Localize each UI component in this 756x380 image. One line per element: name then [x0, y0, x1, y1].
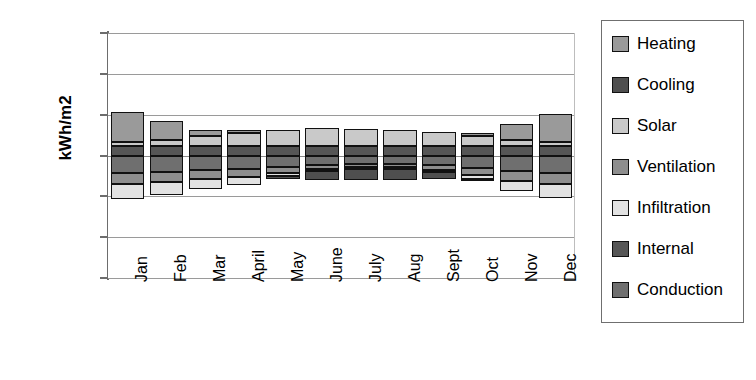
bar-segment-ventilation[interactable]: [500, 171, 533, 181]
bar-segment-internal[interactable]: [227, 146, 260, 155]
bar-column[interactable]: [383, 33, 416, 278]
bar-segment-cooling[interactable]: [305, 171, 338, 180]
bar-segment-cooling[interactable]: [461, 179, 494, 181]
bar-segment-infiltration[interactable]: [500, 181, 533, 191]
x-axis-tick-label: Aug: [406, 254, 424, 282]
bar-column[interactable]: [111, 33, 144, 278]
bar-segment-cooling[interactable]: [383, 169, 416, 180]
bar-column[interactable]: [266, 33, 299, 278]
legend-item[interactable]: Infiltration: [612, 199, 711, 216]
bar-segment-solar[interactable]: [305, 128, 338, 146]
plot-area: [108, 33, 575, 278]
legend-label: Infiltration: [637, 199, 711, 216]
bar-segment-solar[interactable]: [111, 142, 144, 146]
bar-segment-internal[interactable]: [500, 146, 533, 155]
bar-segment-infiltration[interactable]: [189, 179, 222, 189]
x-axis-tick-label: April: [250, 250, 268, 282]
bar-segment-internal[interactable]: [150, 146, 183, 155]
bar-segment-internal[interactable]: [266, 146, 299, 155]
bar-column[interactable]: [344, 33, 377, 278]
bar-segment-conduction[interactable]: [266, 156, 299, 167]
bar-segment-solar[interactable]: [461, 136, 494, 146]
bar-segment-infiltration[interactable]: [111, 184, 144, 199]
bar-segment-solar[interactable]: [539, 142, 572, 146]
bar-segment-internal[interactable]: [344, 146, 377, 155]
bar-segment-cooling[interactable]: [344, 169, 377, 180]
bar-segment-internal[interactable]: [189, 146, 222, 155]
bar-segment-conduction[interactable]: [500, 156, 533, 171]
legend-swatch-icon: [612, 36, 629, 52]
bar-segment-internal[interactable]: [539, 146, 572, 155]
bar-segment-heating[interactable]: [500, 124, 533, 140]
bar-segment-heating[interactable]: [150, 121, 183, 140]
bar-column[interactable]: [500, 33, 533, 278]
x-axis-tick-label: July: [367, 254, 385, 282]
bar-segment-heating[interactable]: [461, 133, 494, 136]
bar-segment-ventilation[interactable]: [189, 170, 222, 179]
bar-segment-conduction[interactable]: [539, 156, 572, 173]
bar-segment-infiltration[interactable]: [150, 182, 183, 195]
bar-segment-heating[interactable]: [227, 130, 260, 133]
bar-segment-solar[interactable]: [266, 130, 299, 146]
legend-swatch-icon: [612, 200, 629, 216]
y-axis-tick: [100, 114, 108, 116]
bar-segment-conduction[interactable]: [111, 156, 144, 173]
bar-segment-cooling[interactable]: [266, 176, 299, 179]
bar-column[interactable]: [539, 33, 572, 278]
x-axis-tick-label: Jan: [133, 256, 151, 282]
x-axis-tick-label: Oct: [484, 257, 502, 282]
legend-item[interactable]: Internal: [612, 240, 694, 257]
bar-segment-heating[interactable]: [189, 130, 222, 136]
legend-swatch-icon: [612, 282, 629, 298]
legend-item[interactable]: Heating: [612, 35, 696, 52]
bar-segment-cooling[interactable]: [422, 172, 455, 179]
legend-item[interactable]: Ventilation: [612, 158, 715, 175]
bar-segment-ventilation[interactable]: [227, 169, 260, 177]
bar-segment-internal[interactable]: [111, 146, 144, 155]
bar-segment-solar[interactable]: [383, 130, 416, 146]
bar-segment-ventilation[interactable]: [111, 173, 144, 184]
bar-segment-conduction[interactable]: [461, 156, 494, 168]
plot-area-wrapper: kWh/m2 6040200-20-40-60 JanFebMarAprilMa…: [0, 0, 600, 380]
bar-segment-ventilation[interactable]: [539, 173, 572, 184]
bar-segment-conduction[interactable]: [305, 156, 338, 165]
y-axis-tick: [100, 32, 108, 34]
bar-segment-solar[interactable]: [344, 129, 377, 146]
bar-segment-conduction[interactable]: [344, 156, 377, 164]
bar-segment-infiltration[interactable]: [539, 184, 572, 198]
bar-column[interactable]: [305, 33, 338, 278]
bar-segment-heating[interactable]: [539, 114, 572, 143]
legend-swatch-icon: [612, 159, 629, 175]
bar-column[interactable]: [461, 33, 494, 278]
bar-segment-solar[interactable]: [422, 132, 455, 146]
bar-segment-conduction[interactable]: [189, 156, 222, 170]
bar-segment-solar[interactable]: [150, 140, 183, 146]
bar-segment-solar[interactable]: [227, 133, 260, 146]
x-axis-tick-label: Nov: [523, 254, 541, 282]
legend-item[interactable]: Solar: [612, 117, 677, 134]
bar-segment-conduction[interactable]: [150, 156, 183, 172]
bar-segment-internal[interactable]: [305, 146, 338, 155]
bar-segment-internal[interactable]: [383, 146, 416, 155]
bar-segment-ventilation[interactable]: [461, 168, 494, 175]
y-axis-tick: [100, 236, 108, 238]
bar-segment-internal[interactable]: [422, 146, 455, 155]
bar-series-group: [108, 33, 575, 278]
x-axis-tick-label: Mar: [211, 254, 229, 282]
bar-column[interactable]: [189, 33, 222, 278]
bar-column[interactable]: [150, 33, 183, 278]
bar-segment-solar[interactable]: [189, 136, 222, 146]
bar-segment-ventilation[interactable]: [150, 172, 183, 182]
bar-segment-solar[interactable]: [500, 140, 533, 146]
bar-segment-conduction[interactable]: [422, 156, 455, 165]
bar-segment-heating[interactable]: [111, 112, 144, 143]
bar-column[interactable]: [227, 33, 260, 278]
y-axis-tick: [100, 195, 108, 197]
legend-item[interactable]: Cooling: [612, 76, 695, 93]
bar-segment-conduction[interactable]: [227, 156, 260, 169]
legend-item[interactable]: Conduction: [612, 281, 723, 298]
bar-segment-internal[interactable]: [461, 146, 494, 155]
bar-column[interactable]: [422, 33, 455, 278]
bar-segment-conduction[interactable]: [383, 156, 416, 164]
bar-segment-infiltration[interactable]: [227, 177, 260, 185]
